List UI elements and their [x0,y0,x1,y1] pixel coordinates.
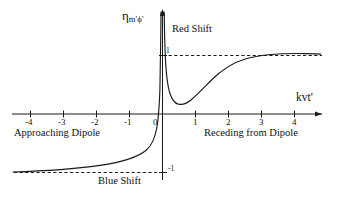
x-tick-label--4: -4 [25,118,33,127]
approaching-dipole-annotation: Approaching Dipole [14,128,100,139]
x-tick-label-4: 4 [292,118,297,127]
y-axis-label: ηm'ϕ' [122,9,144,24]
x-axis-label: kvt' [296,92,313,104]
x-tick-label-0: 0 [153,118,158,127]
blue-shift-annotation: Blue Shift [98,176,141,187]
x-tick-label-2: 2 [226,118,231,127]
red-shift-annotation: Red Shift [172,24,212,35]
receding-from-dipole-annotation: Receding from Dipole [204,128,298,139]
chart-figure: ηm'ϕ' kvt' -4 -3 -2 -1 0 1 2 3 4 1 -1 Re… [0,0,340,202]
x-tick-label-1: 1 [193,118,198,127]
x-tick-label--2: -2 [91,118,99,127]
x-tick-label-3: 3 [259,118,264,127]
y-tick-label--1: -1 [168,165,174,173]
y-axis-label-subscript: m'ϕ' [129,14,144,24]
y-axis-label-symbol: η [122,8,129,23]
x-tick-label--3: -3 [58,118,66,127]
x-axis-arrow-icon [315,111,322,116]
x-tick-label--1: -1 [124,118,132,127]
curve-left-branch [13,12,161,172]
y-tick-label-1: 1 [166,47,170,55]
